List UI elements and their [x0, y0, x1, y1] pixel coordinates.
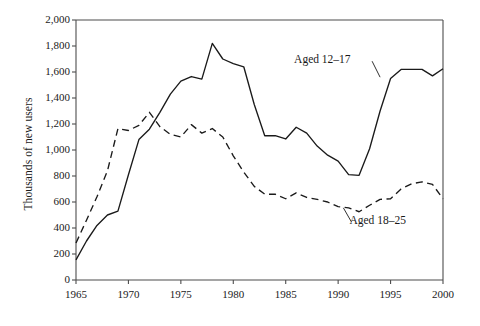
- y-axis-ticks: [72, 20, 76, 280]
- x-tick-label: 1985: [260, 288, 312, 300]
- y-tick-label: 1,400: [18, 91, 70, 103]
- plot-area: [0, 0, 480, 326]
- y-tick-label: 1,800: [18, 39, 70, 51]
- x-tick-label: 1980: [207, 288, 259, 300]
- line-chart: Thousands of new users 02004006008001,00…: [0, 0, 480, 326]
- data-series: [76, 43, 443, 259]
- y-tick-label: 400: [18, 221, 70, 233]
- x-tick-label: 1970: [102, 288, 154, 300]
- annotation-leader-lines: [343, 61, 380, 222]
- x-axis-ticks: [76, 280, 443, 284]
- x-tick-label: 1995: [365, 288, 417, 300]
- series-label-2: Aged 18–25: [349, 214, 406, 226]
- y-tick-label: 600: [18, 195, 70, 207]
- y-tick-label: 2,000: [18, 13, 70, 25]
- y-tick-label: 1,000: [18, 143, 70, 155]
- axes: [76, 20, 443, 280]
- series-label-1: Aged 12–17: [294, 53, 351, 65]
- y-tick-label: 1,200: [18, 117, 70, 129]
- y-tick-label: 1,600: [18, 65, 70, 77]
- y-tick-label: 0: [18, 273, 70, 285]
- x-tick-label: 1975: [155, 288, 207, 300]
- x-tick-label: 2000: [417, 288, 469, 300]
- series-line-aged-12-17: [76, 43, 443, 259]
- x-tick-label: 1990: [312, 288, 364, 300]
- x-tick-label: 1965: [50, 288, 102, 300]
- y-tick-label: 800: [18, 169, 70, 181]
- y-tick-label: 200: [18, 247, 70, 259]
- leader-line: [372, 61, 380, 77]
